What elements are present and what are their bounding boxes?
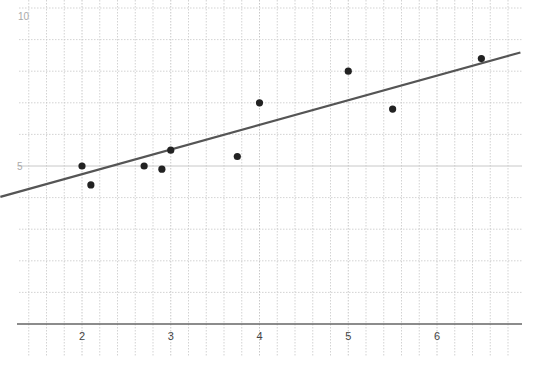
scatter-plot-with-regression-line: 23456510: [0, 0, 540, 369]
x-tick-label: 2: [79, 330, 85, 342]
best-fit-line: [0, 52, 520, 196]
x-tick-label: 6: [434, 330, 440, 342]
plot-area: 23456510: [0, 0, 540, 369]
x-tick-label: 3: [168, 330, 174, 342]
x-tick-label: 5: [345, 330, 351, 342]
data-points: [78, 55, 485, 189]
data-point: [158, 166, 165, 173]
regression-line: [0, 52, 520, 196]
data-point: [87, 181, 94, 188]
data-point: [78, 162, 85, 169]
y-tick-label: 5: [17, 161, 23, 172]
data-point: [389, 106, 396, 113]
data-point: [167, 147, 174, 154]
data-point: [345, 68, 352, 75]
grid-lines: [19, 0, 522, 356]
data-point: [256, 99, 263, 106]
data-point: [141, 162, 148, 169]
x-tick-label: 4: [256, 330, 262, 342]
y-tick-label: 10: [18, 11, 30, 22]
data-point: [234, 153, 241, 160]
data-point: [478, 55, 485, 62]
